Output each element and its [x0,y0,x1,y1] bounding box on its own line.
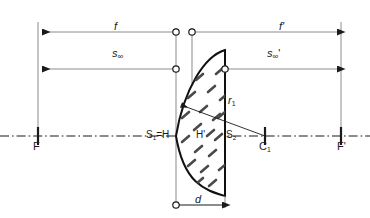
lens-body [176,50,227,200]
label-radius-subscript: 1 [232,100,236,107]
label-vertex-one-base: S [146,129,153,140]
dimension-s-node [173,66,179,72]
label-center-of-curvature-subscript: 1 [267,146,271,153]
dimension-s [42,66,179,72]
label-focal-length-back: f' [279,21,284,32]
dimension-f [42,29,179,35]
diagram-canvas [0,0,370,218]
dimension-s-prime-node [222,66,228,72]
dimension-s-prime [222,66,337,72]
label-focal-length-front: f [114,21,117,32]
label-center-of-curvature: C1 [259,141,271,154]
dimension-d-node [173,202,179,208]
label-back-focal-point: F' [337,141,346,152]
label-center-of-curvature-base: C [259,140,267,152]
label-image-distance: s∞' [267,48,280,61]
dimension-f-prime-node [189,29,195,35]
label-vertex-one-principal-plane: S1=H [146,130,169,141]
label-front-focal-point: F [33,141,40,152]
label-radius: r1 [228,95,235,108]
label-object-distance-subscript: ∞ [118,52,124,61]
dimension-f-node [173,29,179,35]
label-vertex-one-equals-h: =H [156,129,169,140]
label-principal-plane-back: H' [196,130,205,140]
optics-diagram: f f' s∞ s∞' r1 F F' S1=H H' S2 C1 d [0,0,370,218]
label-vertex-two-subscript: 2 [233,134,236,141]
dimension-f-prime [189,29,337,35]
label-object-distance: s∞ [112,48,123,61]
label-image-distance-prime: ' [278,47,280,59]
label-lens-thickness: d [195,194,201,205]
label-vertex-two-base: S [226,129,233,140]
label-vertex-two: S2 [226,130,236,141]
